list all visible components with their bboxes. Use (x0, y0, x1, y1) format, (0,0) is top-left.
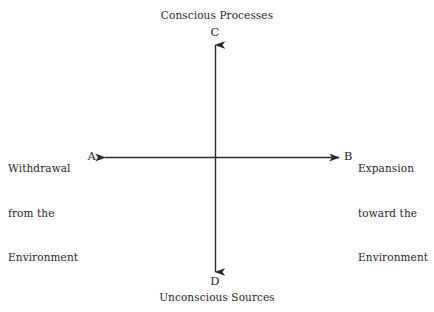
left-axis-label-line-1: Withdrawal (8, 161, 84, 176)
left-axis-label: Withdrawal from the Environment (8, 131, 84, 295)
left-axis-label-line-2: from the (8, 206, 84, 221)
right-axis-label-line-3: Environment (358, 250, 434, 265)
pole-letter-c: C (195, 26, 235, 40)
right-axis-label: Expansion toward the Environment (358, 131, 434, 295)
top-axis-title: Conscious Processes (0, 9, 434, 21)
left-axis-label-line-3: Environment (8, 250, 84, 265)
right-axis-label-line-2: toward the (358, 206, 434, 221)
right-axis-label-line-1: Expansion (358, 161, 434, 176)
diagram-canvas: Conscious Processes C D Unconscious Sour… (0, 0, 434, 312)
pole-letter-d: D (195, 275, 235, 289)
